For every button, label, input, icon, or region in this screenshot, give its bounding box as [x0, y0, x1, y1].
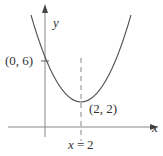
symmetry-label-val: 2: [87, 137, 94, 152]
x-axis-label: x: [151, 120, 158, 135]
point-label-2-2: (2, 2): [89, 101, 117, 116]
y-axis-arrow-icon: [42, 4, 48, 13]
symmetry-label-eq: =: [77, 137, 84, 152]
symmetry-label-var: x: [67, 137, 74, 152]
y-axis-label: y: [51, 15, 59, 30]
parabola-diagram: y x (0, 6) (2, 2) x = 2: [0, 0, 163, 156]
point-label-0-6: (0, 6): [5, 53, 33, 68]
